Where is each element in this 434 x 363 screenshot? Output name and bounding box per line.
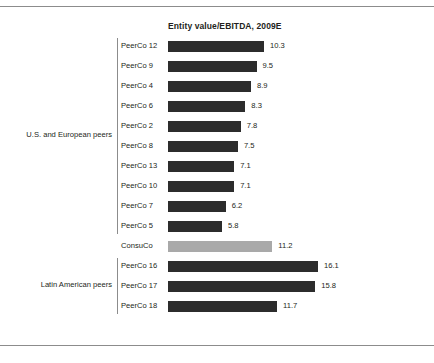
bar-category-label: PeerCo 4 — [121, 76, 168, 96]
bar — [168, 141, 238, 152]
bar-category-label: PeerCo 12 — [121, 36, 168, 56]
chart-row: PeerCo 107.1 — [0, 176, 434, 196]
group-category-label: Latin American peers — [0, 280, 112, 289]
top-divider-rule — [0, 6, 434, 7]
row-label-wrapper: PeerCo 4 — [121, 76, 168, 96]
row-label-wrapper: PeerCo 17 — [121, 276, 168, 296]
bar-category-label: PeerCo 9 — [121, 56, 168, 76]
chart-row: PeerCo 76.2 — [0, 196, 434, 216]
bar — [168, 121, 241, 132]
bar-category-label: PeerCo 8 — [121, 136, 168, 156]
group-axis-rule — [117, 38, 118, 234]
bar-value-label: 8.3 — [251, 96, 262, 116]
row-label-wrapper: PeerCo 18 — [121, 296, 168, 316]
bar-value-label: 5.8 — [228, 216, 239, 236]
bottom-divider-rule — [0, 345, 434, 346]
chart-row: PeerCo 137.1 — [0, 156, 434, 176]
exhibit-chart-panel: Entity value/EBITDA, 2009E PeerCo 1210.3… — [0, 0, 434, 363]
bar-value-label: 9.5 — [263, 56, 274, 76]
bar-category-label: PeerCo 17 — [121, 276, 168, 296]
chart-row: PeerCo 1616.1 — [0, 256, 434, 276]
chart-row: PeerCo 48.9 — [0, 76, 434, 96]
bar-category-label: ConsuCo — [121, 236, 168, 256]
bar-category-label: PeerCo 18 — [121, 296, 168, 316]
bar-value-label: 15.8 — [321, 276, 336, 296]
bar — [168, 301, 277, 312]
bar-value-label: 6.2 — [232, 196, 243, 216]
row-label-wrapper: PeerCo 2 — [121, 116, 168, 136]
bar-value-label: 10.3 — [270, 36, 285, 56]
chart-row: PeerCo 68.3 — [0, 96, 434, 116]
chart-title: Entity value/EBITDA, 2009E — [168, 21, 282, 31]
bar-value-label: 7.1 — [240, 176, 251, 196]
bar-value-label: 16.1 — [324, 256, 339, 276]
bar-value-label: 8.9 — [257, 76, 268, 96]
row-label-wrapper: PeerCo 6 — [121, 96, 168, 116]
row-label-wrapper: PeerCo 5 — [121, 216, 168, 236]
row-label-wrapper: ConsuCo — [121, 236, 168, 256]
bar — [168, 181, 234, 192]
bar-category-label: PeerCo 13 — [121, 156, 168, 176]
bar — [168, 41, 264, 52]
row-label-wrapper: PeerCo 8 — [121, 136, 168, 156]
bar — [168, 61, 257, 72]
bar-value-label: 11.7 — [283, 296, 297, 316]
row-label-wrapper: PeerCo 12 — [121, 36, 168, 56]
bar-category-label: PeerCo 5 — [121, 216, 168, 236]
bar-value-label: 7.5 — [244, 136, 255, 156]
bar — [168, 81, 251, 92]
bar-value-label: 7.8 — [247, 116, 258, 136]
bar-value-label: 7.1 — [240, 156, 251, 176]
group-axis-rule — [117, 258, 118, 314]
bar-category-label: PeerCo 10 — [121, 176, 168, 196]
row-label-wrapper: PeerCo 7 — [121, 196, 168, 216]
chart-row: PeerCo 1210.3 — [0, 36, 434, 56]
row-label-wrapper: PeerCo 13 — [121, 156, 168, 176]
bar — [168, 221, 222, 232]
chart-row: PeerCo 87.5 — [0, 136, 434, 156]
bar — [168, 201, 226, 212]
bar — [168, 101, 245, 112]
bar-value-label: 11.2 — [278, 236, 292, 256]
bar-highlight — [168, 241, 272, 252]
row-label-wrapper: PeerCo 9 — [121, 56, 168, 76]
bar-category-label: PeerCo 7 — [121, 196, 168, 216]
bar-category-label: PeerCo 16 — [121, 256, 168, 276]
bar-category-label: PeerCo 6 — [121, 96, 168, 116]
chart-row: ConsuCo11.2 — [0, 236, 434, 256]
bar-category-label: PeerCo 2 — [121, 116, 168, 136]
bar-chart-plot-area: PeerCo 1210.3PeerCo 99.5PeerCo 48.9PeerC… — [0, 36, 434, 336]
chart-row: PeerCo 55.8 — [0, 216, 434, 236]
bar — [168, 161, 234, 172]
group-category-label: U.S. and European peers — [0, 130, 112, 139]
bar — [168, 261, 318, 272]
chart-row: PeerCo 1811.7 — [0, 296, 434, 316]
row-label-wrapper: PeerCo 16 — [121, 256, 168, 276]
row-label-wrapper: PeerCo 10 — [121, 176, 168, 196]
bar — [168, 281, 315, 292]
chart-row: PeerCo 99.5 — [0, 56, 434, 76]
